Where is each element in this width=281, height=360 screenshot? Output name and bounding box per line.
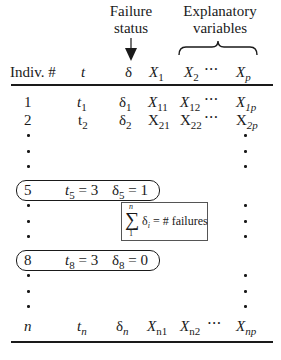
- ellipsis: • • •: [205, 91, 217, 109]
- vertical-ellipsis-dot: [244, 134, 247, 137]
- vertical-ellipsis-dot: [27, 134, 30, 137]
- explanatory-line2: variables: [170, 20, 270, 37]
- vertical-ellipsis-dot: [27, 165, 30, 168]
- t-cell: t2: [78, 111, 88, 129]
- delta-value: = 1: [125, 182, 148, 198]
- t-value: = 3: [75, 252, 98, 268]
- vertical-ellipsis-dot: [244, 150, 247, 153]
- delta-subscript: 2: [126, 119, 132, 131]
- x-symbol: X: [148, 112, 159, 128]
- delta-cell: δ2: [119, 111, 132, 129]
- t-value: = 3: [75, 182, 98, 198]
- sum-symbol: ∑: [125, 209, 139, 229]
- vertical-ellipsis-dot: [27, 204, 30, 207]
- x-symbol: X: [236, 94, 245, 110]
- vertical-ellipsis-dot: [244, 305, 247, 308]
- xp-cell: Xnp: [236, 317, 256, 335]
- vertical-ellipsis-dot: [244, 235, 247, 238]
- x1-subscript: 1: [158, 71, 164, 83]
- x1-cell: X11: [148, 93, 168, 111]
- ellipsis: • • •: [205, 109, 217, 127]
- t-cell: tn: [77, 317, 87, 335]
- ellipsis: • • •: [208, 315, 220, 333]
- x2-cell: X12: [180, 93, 200, 111]
- col-indiv: Indiv. #: [10, 63, 56, 81]
- x-symbol: X: [148, 94, 157, 110]
- failures-text: = # failures: [150, 214, 208, 228]
- vertical-ellipsis-dot: [27, 235, 30, 238]
- x-symbol: X: [180, 318, 189, 334]
- table-row: 1 t1 δ1 X11 X12 • • • X1p: [0, 93, 281, 113]
- x-symbol: X: [180, 94, 189, 110]
- vertical-ellipsis-dot: [244, 204, 247, 207]
- column-headers: Indiv. # t δ X1 X2 • • • Xp: [0, 63, 281, 83]
- x1-cell: Xn1: [147, 317, 167, 335]
- header-rule: [11, 84, 273, 86]
- delta-cell: δ1: [119, 93, 132, 111]
- delta-cell: δ5 = 1: [112, 181, 148, 199]
- x-subscript: 21: [159, 119, 170, 131]
- vertical-ellipsis-dot: [27, 305, 30, 308]
- xp-symbol: X: [236, 64, 245, 80]
- t-subscript: n: [81, 325, 87, 337]
- xp-cell: X2p: [236, 111, 258, 129]
- indiv-cell: 2: [24, 111, 32, 129]
- vertical-ellipsis-dot: [244, 165, 247, 168]
- t-cell: t1: [77, 93, 87, 111]
- delta-value: = 0: [125, 252, 148, 268]
- x-subscript: n1: [156, 325, 167, 337]
- vertical-ellipsis-dot: [27, 274, 30, 277]
- vertical-ellipsis-dot: [27, 150, 30, 153]
- x-subscript: np: [245, 325, 256, 337]
- t-cell: t8 = 3: [65, 251, 98, 269]
- col-x2: X2: [184, 63, 199, 81]
- x-subscript: 2p: [247, 119, 258, 131]
- vertical-ellipsis-dot: [244, 274, 247, 277]
- failures-sum-annotation: n ∑ 1 δi = # failures: [121, 202, 208, 241]
- delta-cell: δn: [116, 317, 129, 335]
- table-row: 8 t8 = 3 δ8 = 0: [0, 251, 281, 271]
- col-t: t: [81, 63, 85, 81]
- t-cell: t5 = 3: [65, 181, 98, 199]
- delta-cell: δ8 = 0: [112, 251, 148, 269]
- curly-brace-icon: [178, 40, 258, 56]
- x-symbol: X: [236, 318, 245, 334]
- x-subscript: n2: [189, 325, 200, 337]
- x-symbol: X: [180, 112, 191, 128]
- x-symbol: X: [236, 112, 247, 128]
- bottom-rule: [11, 341, 273, 343]
- indiv-cell: n: [24, 317, 32, 335]
- vertical-ellipsis-dot: [27, 220, 30, 223]
- sum-expression: δi = # failures: [142, 214, 208, 229]
- failure-status-line1: Failure: [96, 3, 166, 20]
- col-ellipsis: • • •: [205, 61, 217, 79]
- vertical-ellipsis-dot: [244, 290, 247, 293]
- indiv-cell: 8: [24, 251, 32, 269]
- x1-cell: X21: [148, 111, 170, 129]
- explanatory-line1: Explanatory: [170, 3, 270, 20]
- table-row: 2 t2 δ2 X21 X22 • • • X2p: [0, 111, 281, 131]
- vertical-ellipsis-dot: [27, 290, 30, 293]
- x2-symbol: X: [184, 64, 193, 80]
- delta-subscript: n: [123, 325, 129, 337]
- arrow-down-icon: [124, 38, 138, 62]
- x2-cell: Xn2: [180, 317, 200, 335]
- indiv-cell: 5: [24, 181, 32, 199]
- table-row: n tn δn Xn1 Xn2 • • • Xnp: [0, 317, 281, 337]
- xp-cell: X1p: [236, 93, 256, 111]
- x-subscript: 22: [191, 119, 202, 131]
- table-row: 5 t5 = 3 δ5 = 1: [0, 181, 281, 201]
- x1-symbol: X: [149, 64, 158, 80]
- explanatory-variables-label: Explanatory variables: [170, 3, 270, 37]
- t-subscript: 2: [82, 119, 88, 131]
- failure-status-label: Failure status: [96, 3, 166, 37]
- col-x1: X1: [149, 63, 164, 81]
- col-xp: Xp: [236, 63, 251, 81]
- col-delta: δ: [125, 63, 132, 81]
- vertical-ellipsis-dot: [244, 220, 247, 223]
- indiv-cell: 1: [24, 93, 32, 111]
- x-symbol: X: [147, 318, 156, 334]
- xp-subscript: p: [245, 71, 251, 83]
- x2-cell: X22: [180, 111, 202, 129]
- failure-status-line2: status: [96, 20, 166, 37]
